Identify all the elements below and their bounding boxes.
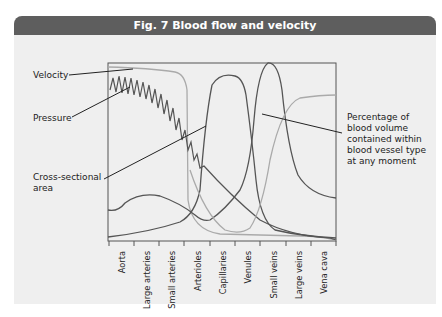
tick-label-small-veins: Small veins — [269, 251, 279, 299]
percentage-label-2: blood volume — [347, 123, 409, 133]
percentage-label-3: contained within — [347, 134, 422, 144]
tick-label-large-veins: Large veins — [294, 251, 304, 299]
velocity-curve — [108, 67, 336, 240]
pressure-label: Pressure — [33, 113, 72, 123]
tick-label-arterioles: Arterioles — [193, 251, 203, 291]
chart-frame — [108, 63, 336, 241]
percentage-label-1: Percentage of — [347, 112, 410, 122]
cross-sectional-area-curve — [108, 75, 336, 238]
blood-flow-diagram: Velocity Pressure Cross-sectional area P… — [0, 0, 442, 317]
tick-label-large-arteries: Large arteries — [142, 251, 152, 309]
x-axis-labels: Aorta Large arteries Small arteries Arte… — [117, 251, 329, 309]
tick-label-venules: Venules — [243, 251, 253, 283]
percentage-label-4: blood vessel type — [347, 145, 427, 155]
velocity-label: Velocity — [33, 70, 69, 80]
cross-sectional-label-2: area — [33, 183, 53, 193]
tick-label-small-arteries: Small arteries — [167, 251, 177, 309]
cross-sectional-label-1: Cross-sectional — [33, 172, 101, 182]
percentage-label-5: at any moment — [347, 156, 417, 166]
tick-label-vena-cava: Vena cava — [319, 251, 329, 294]
tick-label-aorta: Aorta — [117, 251, 127, 273]
tick-label-capillaries: Capillaries — [218, 251, 228, 294]
x-axis-ticks — [109, 241, 336, 246]
